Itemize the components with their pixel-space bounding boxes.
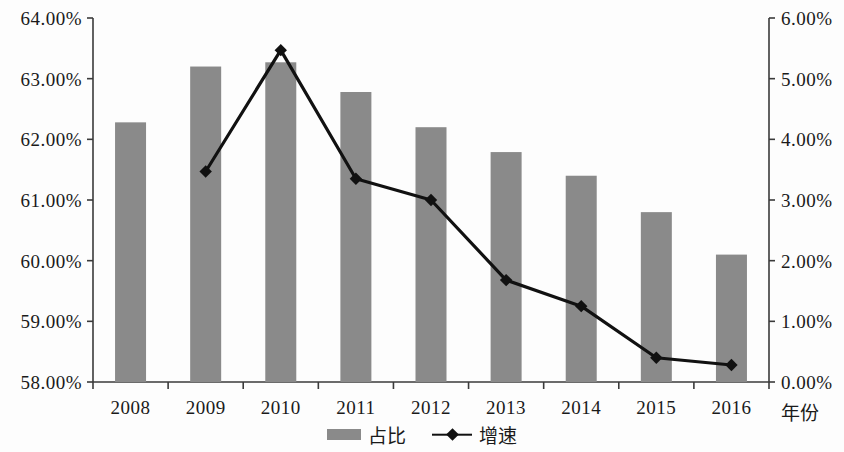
left-axis-tick-62: 62.00%: [20, 130, 82, 149]
bar-2010: [265, 62, 296, 382]
chart-plot-area: [0, 0, 844, 452]
bar-2009: [190, 67, 221, 382]
left-axis-tick-58: 58.00%: [20, 373, 82, 392]
left-axis-tick-63: 63.00%: [20, 69, 82, 88]
left-axis-tick-59: 59.00%: [20, 312, 82, 331]
legend-line-diamond-icon: [432, 429, 472, 441]
x-axis-tick-2008: 2008: [111, 398, 151, 417]
legend-label-bar: 占比: [368, 421, 406, 448]
right-axis-tick-2: 2.00%: [781, 251, 833, 270]
chart-container: 58.00%59.00%60.00%61.00%62.00%63.00%64.0…: [0, 0, 844, 452]
legend-bar-swatch-icon: [327, 429, 361, 440]
bar-2014: [566, 176, 597, 382]
chart-legend: 占比 增速: [0, 421, 844, 448]
x-axis-tick-2012: 2012: [411, 398, 451, 417]
right-axis-tick-4: 4.00%: [781, 130, 833, 149]
right-axis-tick-5: 5.00%: [781, 69, 833, 88]
bar-2011: [340, 92, 371, 382]
bar-2008: [115, 122, 146, 382]
right-axis-tick-0: 0.00%: [781, 373, 833, 392]
right-axis-tick-1: 1.00%: [781, 312, 833, 331]
legend-item-bar[interactable]: 占比: [327, 421, 406, 448]
right-axis-tick-6: 6.00%: [781, 9, 833, 28]
legend-label-line: 增速: [479, 421, 517, 448]
right-axis-tick-3: 3.00%: [781, 191, 833, 210]
left-axis-tick-64: 64.00%: [20, 9, 82, 28]
left-axis-tick-61: 61.00%: [20, 191, 82, 210]
bar-series-group: [115, 62, 747, 382]
x-axis-tick-2010: 2010: [261, 398, 301, 417]
x-axis-tick-2009: 2009: [186, 398, 226, 417]
x-axis-tick-2011: 2011: [336, 398, 375, 417]
bar-2012: [416, 127, 447, 382]
x-axis-tick-2015: 2015: [636, 398, 676, 417]
legend-item-line[interactable]: 增速: [432, 421, 517, 448]
left-axis-tick-60: 60.00%: [20, 251, 82, 270]
x-axis-tick-2013: 2013: [486, 398, 526, 417]
x-axis-tick-2014: 2014: [561, 398, 601, 417]
x-axis-tick-2016: 2016: [711, 398, 751, 417]
